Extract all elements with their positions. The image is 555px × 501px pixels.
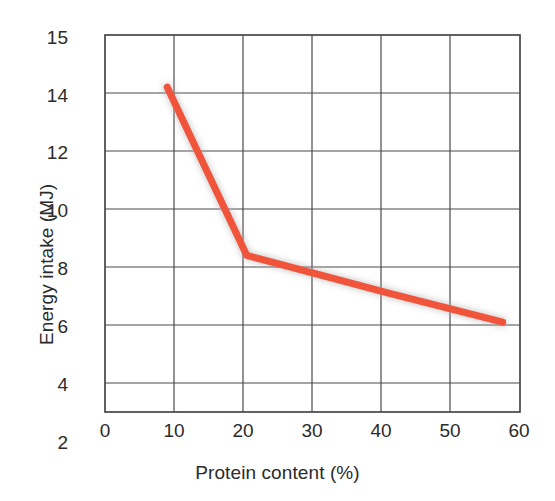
plot-canvas (0, 0, 555, 501)
chart-figure: Energy intake (MJ) Protein content (%) 1… (0, 0, 555, 501)
